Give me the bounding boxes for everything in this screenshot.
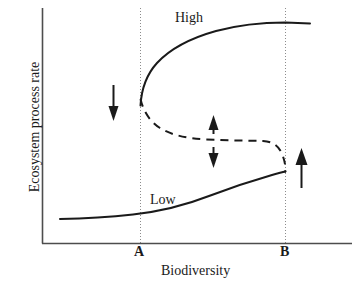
arrow-recovery-up: [296, 148, 308, 188]
branch-label-high: High: [175, 11, 203, 25]
x-tick-label-a: A: [134, 245, 144, 259]
arrow-divergence-down: [209, 147, 219, 168]
branch-label-low: Low: [150, 193, 176, 207]
arrow-divergence-up: [209, 115, 219, 134]
x-axis-title: Biodiversity: [161, 264, 230, 278]
curve-upper-stable-high: [141, 23, 311, 106]
x-tick-label-b: B: [280, 245, 289, 259]
arrow-collapse-down: [109, 85, 119, 121]
plot-canvas: [0, 0, 364, 298]
y-axis-title: Ecosystem process rate: [28, 47, 42, 207]
bistability-diagram: High Low A B Biodiversity Ecosystem proc…: [0, 0, 364, 298]
